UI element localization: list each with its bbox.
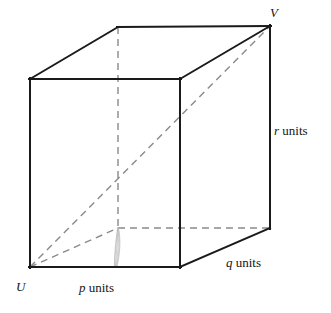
hidden-edge-bottom-left-receding	[30, 228, 118, 267]
dimension-label-q: q units	[226, 256, 261, 269]
space-diagonal-u-to-v	[30, 26, 270, 267]
space-diagonal-group	[30, 26, 270, 267]
edge-top-left-receding	[30, 27, 118, 79]
dimension-label-p: p units	[79, 281, 114, 294]
geometry-figure: V U p units q units r units	[0, 0, 331, 313]
dimension-units-p: units	[86, 280, 115, 295]
dimension-label-r: r units	[274, 124, 308, 137]
dimension-units-r: units	[279, 123, 308, 138]
vertex-label-u: U	[16, 280, 25, 293]
rectangular-prism-drawing	[0, 0, 331, 313]
faint-sliver-artifact	[114, 228, 119, 268]
dimension-units-q: units	[233, 255, 262, 270]
vertex-label-v: V	[270, 6, 278, 19]
edge-back-top	[117, 26, 271, 27]
